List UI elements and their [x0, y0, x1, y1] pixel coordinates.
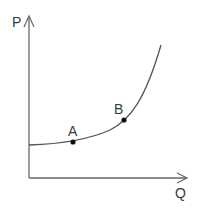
point-a-label: A — [68, 123, 78, 139]
y-axis-label: P — [12, 14, 21, 30]
point-b — [121, 117, 126, 122]
price-quantity-diagram: P Q A B — [0, 0, 198, 210]
point-b-label: B — [114, 101, 123, 117]
x-axis-label: Q — [175, 185, 186, 201]
point-a — [70, 139, 75, 144]
supply-curve — [29, 45, 161, 145]
